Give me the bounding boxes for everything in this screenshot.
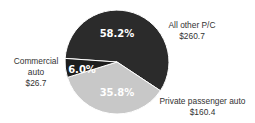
label-all-other-value: $260.7 (157, 30, 227, 41)
label-commercial-name-1: Commercial (10, 55, 63, 66)
label-commercial-value: $26.7 (10, 77, 63, 88)
label-private-name: Private passenger auto (156, 95, 248, 106)
label-commercial: Commercial auto $26.7 (10, 55, 63, 88)
label-private: Private passenger auto $160.4 (156, 95, 248, 117)
label-private-value: $160.4 (156, 106, 248, 117)
pct-private: 35.8% (100, 87, 135, 98)
pct-all-other: 58.2% (100, 28, 135, 39)
label-all-other: All other P/C $260.7 (157, 19, 227, 41)
label-all-other-name: All other P/C (157, 19, 227, 30)
pct-commercial: 6.0% (68, 64, 96, 75)
label-commercial-name-2: auto (10, 66, 63, 77)
